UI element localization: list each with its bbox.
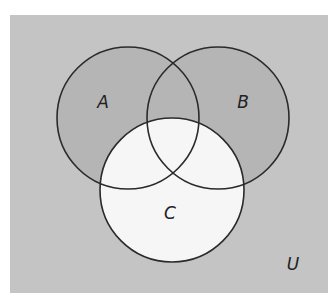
- set-a-label: A: [96, 92, 109, 112]
- venn-diagram: A B C U: [0, 0, 336, 297]
- universe-label: U: [287, 254, 300, 274]
- set-c-label: C: [164, 203, 176, 223]
- set-b-label: B: [237, 92, 249, 112]
